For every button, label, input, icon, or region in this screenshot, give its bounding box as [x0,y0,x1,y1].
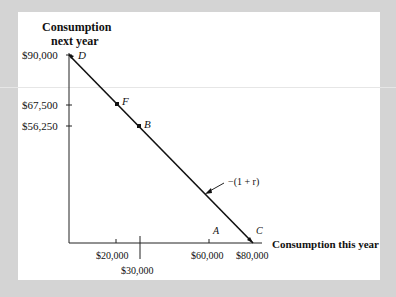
x-tick-label-30000: $30,000 [121,266,154,276]
point-label-b: B [144,119,151,130]
point-f [115,102,119,106]
slope-arrowhead-icon [205,188,212,194]
x-axis-title: Consumption this year [272,239,379,250]
y-tick-label-67500: $67,500 [22,100,58,111]
x-tick-label-20000: $20,000 [96,251,129,261]
x-tick-label-80000: $80,000 [236,251,269,261]
slope-annotation: −(1 + r) [228,177,259,187]
point-label-f: F [122,96,129,107]
budget-line [69,55,253,243]
y-tick-label-56250: $56,250 [22,121,58,132]
point-b [137,124,141,128]
point-label-d: D [78,50,86,61]
y-axis-title-line1: Consumption [42,21,111,33]
y-axis-title-line2: next year [51,35,99,47]
point-label-c: C [256,226,263,236]
x-tick-label-60000: $60,000 [191,251,224,261]
y-tick-label-90000: $90,000 [22,50,58,61]
point-label-a: A [213,226,219,236]
